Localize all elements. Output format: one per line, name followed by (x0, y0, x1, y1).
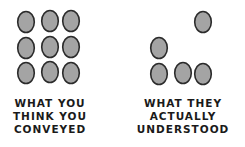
right-caption-line-1: WHAT THEY (126, 97, 240, 110)
left-dot-9 (63, 63, 80, 84)
right-caption-line-3: UNDERSTOOD (126, 123, 240, 136)
left-dot-7 (18, 63, 35, 84)
left-dot-6 (63, 37, 80, 58)
right-dot-3 (151, 64, 168, 85)
right-caption: WHAT THEY ACTUALLY UNDERSTOOD (126, 97, 240, 136)
right-dot-2 (151, 38, 168, 59)
left-dot-1 (18, 12, 35, 33)
left-caption-line-3: CONVEYED (2, 123, 98, 136)
left-dot-3 (63, 11, 80, 32)
left-dot-4 (18, 38, 35, 59)
right-dot-scatter (151, 12, 212, 85)
left-caption-line-1: WHAT YOU (2, 97, 98, 110)
left-dot-grid (18, 11, 80, 84)
left-dot-2 (42, 11, 59, 32)
right-dot-1 (195, 12, 212, 33)
dots-illustration (0, 0, 245, 90)
left-caption-line-2: THINK YOU (2, 110, 98, 123)
left-dot-8 (42, 62, 59, 83)
right-dot-4 (175, 63, 192, 84)
right-caption-line-2: ACTUALLY (126, 110, 240, 123)
left-caption: WHAT YOU THINK YOU CONVEYED (2, 97, 98, 136)
right-dot-5 (195, 64, 212, 85)
left-dot-5 (42, 37, 59, 58)
